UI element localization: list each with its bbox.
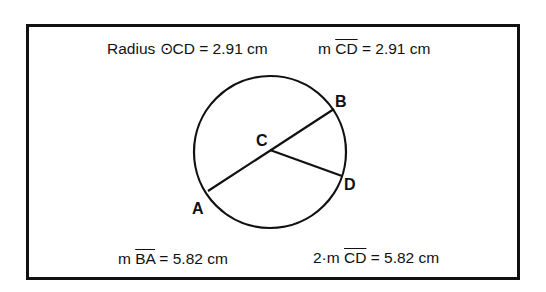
point-a-label: A <box>192 200 204 217</box>
point-d-label: D <box>344 176 356 193</box>
radius-cd <box>270 150 342 176</box>
point-c-label: C <box>256 132 268 149</box>
circle-c <box>194 76 346 228</box>
circle-diagram: A B C D <box>0 0 546 292</box>
point-b-label: B <box>335 93 347 110</box>
